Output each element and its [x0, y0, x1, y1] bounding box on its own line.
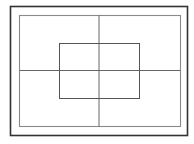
diagram-canvas: [0, 0, 194, 144]
